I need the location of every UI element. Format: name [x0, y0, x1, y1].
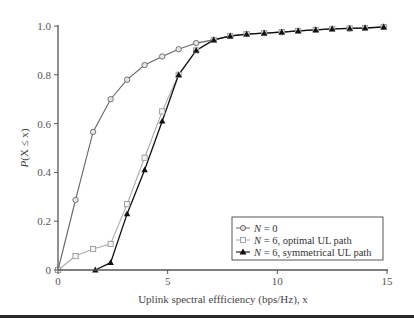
triangle-data-point	[141, 167, 147, 173]
svg-text:N = 6, optimal UL path: N = 6, optimal UL path	[253, 235, 352, 246]
square-marker-icon	[241, 238, 246, 243]
x-ticks: 051015	[55, 270, 393, 287]
triangle-data-point	[107, 259, 113, 265]
y-tick-label: 0.4	[37, 166, 51, 178]
circle-marker-icon	[240, 225, 245, 230]
circle-data-point	[124, 77, 129, 82]
square-data-point	[124, 202, 129, 207]
triangle-data-point	[124, 210, 130, 216]
legend: N = 0 N = 6, optimal UL path N = 6, symm…	[232, 217, 383, 260]
x-tick-label: 0	[55, 275, 61, 287]
y-tick-label: 0.6	[37, 118, 51, 130]
circle-data-point	[159, 54, 164, 59]
circle-data-point	[193, 40, 198, 45]
y-tick-label: 0.2	[37, 215, 51, 227]
legend-item-n6-optimal: N = 6, optimal UL path	[236, 235, 352, 246]
y-ticks: 00.20.40.60.81.0	[37, 20, 58, 276]
square-data-point	[108, 241, 113, 246]
svg-text:N = 0: N = 0	[253, 223, 277, 234]
x-tick-label: 10	[272, 275, 284, 287]
circle-data-point	[142, 62, 147, 67]
x-axis-title: Uplink spectral effficiency (bps/Hz), x	[138, 293, 308, 306]
y-axis-title: P(X ≤ x)	[18, 128, 31, 168]
square-data-point	[73, 253, 78, 258]
circle-data-point	[176, 46, 181, 51]
circle-data-point	[90, 129, 95, 134]
square-data-point	[142, 155, 147, 160]
circle-data-point	[73, 197, 78, 202]
y-tick-label: 0.8	[37, 69, 51, 81]
circle-data-point	[108, 97, 113, 102]
svg-text:N = 6, symmetrical UL path: N = 6, symmetrical UL path	[253, 247, 372, 258]
y-tick-label: 0	[46, 264, 52, 276]
square-data-point	[90, 246, 95, 251]
square-data-point	[160, 109, 165, 114]
legend-item-n6-symmetrical: N = 6, symmetrical UL path	[236, 247, 372, 258]
y-tick-label: 1.0	[37, 20, 51, 32]
x-tick-label: 15	[382, 275, 394, 287]
x-tick-label: 5	[165, 275, 171, 287]
cdf-chart: 00.20.40.60.81.0 051015 P(X ≤ x) Uplink …	[0, 0, 414, 318]
